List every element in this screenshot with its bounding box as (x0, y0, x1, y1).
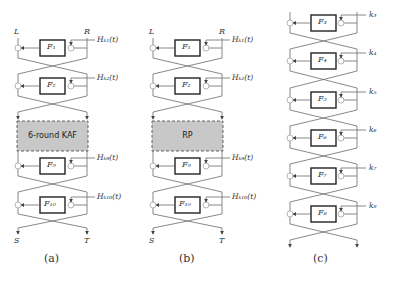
key-label: Hₖ₂(t) (232, 73, 253, 82)
output-t-label: T (84, 236, 89, 245)
f-label: F₁₀ (44, 199, 56, 208)
input-r-label: R (219, 27, 225, 36)
key-label: Hₖ₁(t) (232, 35, 253, 44)
f-label: F₁ (47, 42, 56, 51)
add-icon (68, 45, 74, 51)
key-label: k₄ (369, 48, 377, 57)
input-l-label: L (149, 27, 154, 36)
input-r-label: R (84, 27, 90, 36)
f-label: F₈ (318, 208, 327, 217)
key-label: k₆ (369, 125, 377, 134)
caption-c: (c) (313, 252, 328, 265)
caption-a: (a) (44, 252, 59, 265)
feistel-diagrams (0, 0, 395, 281)
key-label: k₇ (369, 163, 377, 172)
f-label: F₃ (318, 17, 327, 26)
key-label: Hₖ₁₀(t) (97, 192, 121, 201)
output-s-label: S (149, 236, 154, 245)
f-label: F₇ (318, 170, 327, 179)
key-label: Hₖ₂(t) (97, 73, 118, 82)
key-label: Hₖ₉(t) (232, 153, 253, 162)
f-label: F₁ (182, 42, 191, 51)
key-label: k₈ (369, 201, 377, 210)
xor-icon (15, 45, 21, 51)
key-label: Hₖ₁₀(t) (232, 192, 256, 201)
output-s-label: S (14, 236, 19, 245)
key-label: k₅ (369, 87, 377, 96)
f-label: F₉ (182, 160, 191, 169)
f-label: F₆ (318, 132, 327, 141)
key-label: k₃ (369, 10, 377, 19)
f-label: F₁₀ (179, 199, 191, 208)
f-label: F₅ (318, 94, 327, 103)
kaf-block-label: 6-round KAF (17, 131, 88, 140)
input-l-label: L (14, 27, 19, 36)
f-label: F₂ (182, 80, 191, 89)
key-label: Hₖ₁(t) (97, 35, 118, 44)
f-label: F₄ (318, 55, 327, 64)
caption-b: (b) (179, 252, 195, 265)
rp-block-label: RP (152, 131, 223, 140)
f-label: F₉ (47, 160, 56, 169)
f-label: F₂ (47, 80, 56, 89)
output-t-label: T (219, 236, 224, 245)
key-label: Hₖ₉(t) (97, 153, 118, 162)
